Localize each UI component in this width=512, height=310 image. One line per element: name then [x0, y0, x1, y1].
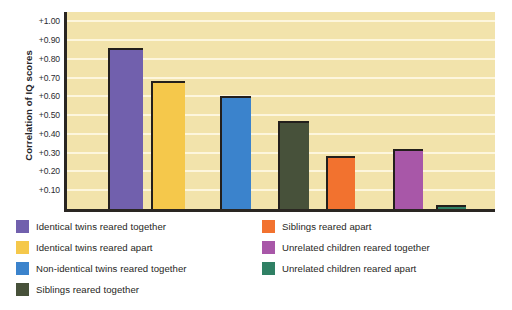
legend-item: Siblings reared together: [16, 281, 139, 297]
gridline: [67, 20, 495, 22]
legend-item: Identical twins reared apart: [16, 239, 153, 255]
bar-3: [278, 121, 309, 209]
legend-item-label: Unrelated children reared apart: [282, 263, 416, 274]
legend-item: Identical twins reared together: [16, 218, 166, 234]
bar-5: [393, 149, 423, 209]
legend-item: Unrelated children reared together: [262, 239, 430, 255]
y-tick-label: +1.00: [39, 16, 60, 26]
legend-item-label: Non-identical twins reared together: [36, 263, 187, 274]
bar-2: [220, 96, 251, 209]
legend-item-label: Identical twins reared apart: [36, 242, 153, 253]
y-tick-label: +0.40: [39, 129, 60, 139]
legend-item: Siblings reared apart: [262, 218, 372, 234]
legend-swatch-icon: [262, 241, 275, 254]
legend-swatch-icon: [16, 241, 29, 254]
gridline: [67, 39, 495, 41]
legend-swatch-icon: [262, 220, 275, 233]
legend-swatch-icon: [16, 262, 29, 275]
plot-area: [64, 12, 495, 212]
legend-item: Non-identical twins reared together: [16, 260, 187, 276]
y-tick-label: +0.50: [39, 110, 60, 120]
y-tick-label: +0.70: [39, 73, 60, 83]
y-tick-label: +0.10: [39, 185, 60, 195]
y-tick-label: +0.30: [39, 148, 60, 158]
bar-4: [326, 156, 355, 209]
legend-item-label: Siblings reared apart: [282, 221, 372, 232]
y-tick-label: +0.80: [39, 54, 60, 64]
legend-swatch-icon: [16, 220, 29, 233]
legend-item-label: Siblings reared together: [36, 284, 139, 295]
bar-6: [436, 205, 466, 209]
bar-1: [151, 81, 185, 209]
legend-item: Unrelated children reared apart: [262, 260, 416, 276]
iq-correlation-chart: Correlation of IQ scores +1.00+0.90+0.80…: [0, 0, 512, 310]
bar-0: [108, 48, 143, 209]
legend-swatch-icon: [262, 262, 275, 275]
legend-swatch-icon: [16, 283, 29, 296]
y-axis-tick-labels: +1.00+0.90+0.80+0.70+0.60+0.50+0.40+0.30…: [32, 12, 60, 209]
chart-legend: Identical twins reared togetherIdentical…: [16, 218, 502, 306]
y-tick-label: +0.20: [39, 166, 60, 176]
legend-item-label: Unrelated children reared together: [282, 242, 430, 253]
legend-item-label: Identical twins reared together: [36, 221, 166, 232]
y-tick-label: +0.90: [39, 35, 60, 45]
y-tick-label: +0.60: [39, 91, 60, 101]
plot-inner: [67, 12, 495, 209]
